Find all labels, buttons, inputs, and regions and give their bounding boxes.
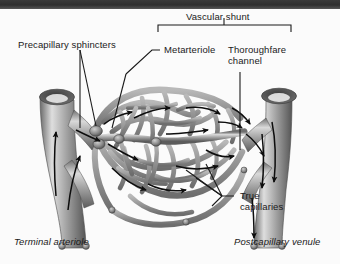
label-postcapillary-venule: Postcapillary venule — [234, 236, 321, 247]
label-terminal-arteriole: Terminal arteriole — [14, 236, 89, 247]
vascular-shunt-bracket — [158, 25, 291, 32]
capillary-bed-figure: Vascular shunt Precapillary sphincters M… — [0, 0, 340, 264]
label-vascular-shunt: Vascular shunt — [186, 11, 250, 22]
label-thoroughfare-channel-line2: channel — [228, 55, 262, 66]
postcapillary-venule-vessel — [242, 88, 297, 248]
label-metarteriole: Metarteriole — [164, 44, 215, 55]
label-true-capillaries-line2: capillaries — [240, 201, 283, 212]
metarteriole-leader — [126, 50, 160, 74]
label-thoroughfare-channel-line1: Thoroughfare — [228, 44, 286, 55]
label-precapillary-sphincters: Precapillary sphincters — [18, 39, 116, 50]
precapillary-leader-2 — [80, 50, 96, 126]
terminal-arteriole-vessel — [40, 89, 99, 248]
label-true-capillaries-line1: True — [240, 190, 260, 201]
